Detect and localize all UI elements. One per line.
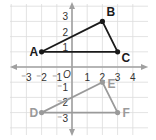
vertex-f-point <box>115 110 120 115</box>
x-tick-label: 1 <box>84 72 90 83</box>
triangle-abc: ABC <box>30 5 131 64</box>
y-tick-label: ⁻3 <box>57 113 68 124</box>
triangles: ABCDEF <box>30 5 131 119</box>
vertex-f-label: F <box>123 106 130 120</box>
x-tick-label: ⁻3 <box>21 72 32 83</box>
x-tick-label: 3 <box>115 72 121 83</box>
x-axis-right-arrow-icon <box>141 64 148 70</box>
vertex-c-point <box>115 49 120 54</box>
vertex-a-label: A <box>30 45 39 59</box>
vertex-b-point <box>100 19 105 24</box>
vertex-c-label: C <box>122 51 131 65</box>
vertex-a-point <box>39 49 44 54</box>
y-tick-label: 3 <box>62 11 68 22</box>
x-tick-label: 4 <box>130 72 136 83</box>
coordinate-plane: ⁻3⁻2⁻11234321⁻1⁻2⁻3 O ABCDEF <box>0 0 156 140</box>
y-axis-down-arrow-icon <box>69 129 75 136</box>
vertex-d-point <box>39 110 44 115</box>
vertex-b-label: B <box>106 5 115 19</box>
y-tick-label: ⁻1 <box>57 82 68 93</box>
origin-label: O <box>63 69 71 80</box>
vertex-d-label: D <box>30 106 39 120</box>
x-tick-label: ⁻2 <box>36 72 47 83</box>
y-axis-up-arrow-icon <box>69 2 75 9</box>
triangle-def: DEF <box>30 77 130 119</box>
vertex-e-point <box>100 80 105 85</box>
vertex-e-label: E <box>107 77 115 91</box>
y-tick-label: 2 <box>62 27 68 38</box>
